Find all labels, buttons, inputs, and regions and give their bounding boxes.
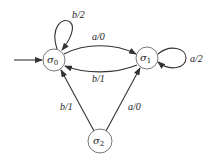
edge-label-s2-s0: b/1 [60, 101, 73, 112]
edge-s1-s0 [65, 65, 137, 72]
edge-s2-s1 [106, 68, 140, 131]
edge-label-s0-s1: a/0 [92, 31, 105, 42]
edge-label-s1-s0: b/1 [92, 73, 105, 84]
state-sigma-2: σ2 [88, 129, 112, 153]
state-diagram: b/2 a/0 b/1 a/2 b/1 a/0 σ0 σ1 σ2 [0, 0, 216, 162]
state-sigma-0: σ0 [43, 49, 65, 71]
edge-s1-loop [158, 48, 186, 68]
edge-label-s0-loop: b/2 [72, 9, 85, 20]
edge-s0-s1 [64, 46, 136, 54]
state-sigma-1: σ1 [136, 47, 158, 69]
edge-label-s2-s1: a/0 [128, 101, 141, 112]
edge-label-s1-loop: a/2 [190, 53, 203, 64]
edge-s0-loop [55, 20, 73, 50]
